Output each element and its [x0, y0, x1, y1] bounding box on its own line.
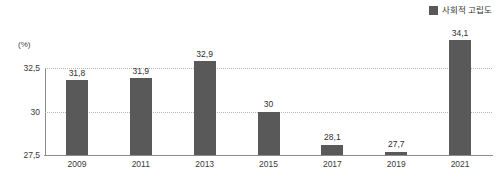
x-axis-line — [44, 155, 493, 156]
x-tick-label-2017: 2017 — [300, 160, 364, 169]
y-tick-label-30: 30 — [31, 107, 40, 116]
bar-value-label: 28,1 — [324, 133, 341, 142]
bar-group-2017: 28,1 — [300, 28, 364, 155]
bar-group-2021: 34,1 — [428, 28, 492, 155]
legend-swatch-icon — [429, 6, 438, 15]
x-tick-label-2019: 2019 — [364, 160, 428, 169]
legend-label: 사회적 고립도 — [442, 6, 492, 15]
x-tick-label-2011: 2011 — [109, 160, 173, 169]
bar-chart: 사회적 고립도 (%) 32,5 30 27,5 31,8 31,9 32,9 — [0, 0, 500, 183]
bar-rect[interactable] — [321, 145, 343, 155]
bar-group-2011: 31,9 — [109, 28, 173, 155]
y-tick-label-27-5: 27,5 — [23, 151, 40, 160]
x-tick-label-2013: 2013 — [173, 160, 237, 169]
bar-series: 31,8 31,9 32,9 30 28,1 27,7 — [45, 28, 492, 155]
bar-group-2009: 31,8 — [45, 28, 109, 155]
x-axis-labels: 2009 2011 2013 2015 2017 2019 2021 — [45, 160, 492, 169]
bar-group-2019: 27,7 — [364, 28, 428, 155]
x-tick-label-2015: 2015 — [237, 160, 301, 169]
x-tick-label-2009: 2009 — [45, 160, 109, 169]
x-tick-label-2021: 2021 — [428, 160, 492, 169]
bar-value-label: 32,9 — [196, 50, 213, 59]
bar-group-2013: 32,9 — [173, 28, 237, 155]
bar-value-label: 27,7 — [388, 140, 405, 149]
y-tick-label-32-5: 32,5 — [23, 64, 40, 73]
bar-rect[interactable] — [130, 78, 152, 155]
bar-rect[interactable] — [194, 61, 216, 155]
bar-rect[interactable] — [258, 112, 280, 156]
bar-value-label: 31,8 — [69, 69, 86, 78]
bar-group-2015: 30 — [237, 28, 301, 155]
bar-value-label: 30 — [264, 100, 273, 109]
y-axis-unit-label: (%) — [18, 41, 30, 49]
bar-value-label: 31,9 — [133, 67, 150, 76]
bar-rect[interactable] — [66, 80, 88, 155]
bar-value-label: 34,1 — [452, 29, 469, 38]
chart-legend: 사회적 고립도 — [429, 4, 492, 16]
plot-area: 32,5 30 27,5 31,8 31,9 32,9 30 28,1 — [45, 68, 492, 155]
bar-rect[interactable] — [385, 152, 407, 155]
bar-rect[interactable] — [449, 40, 471, 155]
